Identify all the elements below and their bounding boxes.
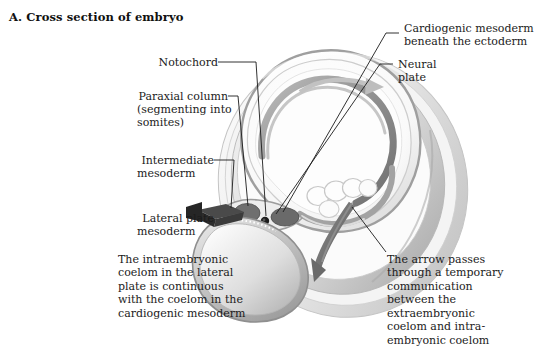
note-arrow-line3: communication: [387, 280, 473, 293]
label-notochord: Notochord: [68, 56, 218, 69]
right-mesoderm-mass: [271, 208, 299, 226]
coelom-communication-arrow: [311, 203, 352, 282]
label-lateral-plate-line2: mesoderm: [137, 225, 195, 238]
label-cardiogenic-line1: Cardiogenic mesoderm: [404, 22, 534, 35]
paraxial-column-mass: [234, 204, 260, 223]
label-intermediate-line1: Intermediate: [64, 154, 214, 167]
intermediate-mesoderm-mass: [222, 208, 238, 221]
page-title: A. Cross section of embryo: [9, 10, 183, 24]
label-paraxial-column-line1: Paraxial column: [78, 90, 228, 103]
leader-cardiogenic: [283, 33, 399, 212]
amnion: [241, 50, 420, 232]
cardiogenic-mesoderm: [300, 168, 392, 226]
note-arrow-line4: between the: [387, 293, 456, 306]
note-arrow-line7: embryonic coelom: [387, 334, 489, 347]
label-neural-plate-line2: plate: [398, 71, 426, 84]
somite-lobes: [307, 179, 377, 218]
amniotic-cavity: [256, 69, 402, 216]
note-arrow-line6: coelom and intra-: [387, 320, 485, 333]
note-arrow-line2: through a temporary: [387, 266, 503, 279]
note-coelom-line3: plate is continuous: [118, 280, 224, 293]
leader-neural-plate: [276, 64, 393, 214]
label-cardiogenic-line2: beneath the ectoderm: [404, 35, 527, 48]
figure-panel: A. Cross section of embryo: [0, 0, 541, 361]
leader-arrow-note: [352, 207, 386, 252]
note-arrow-line5: extraembryonic: [387, 307, 475, 320]
neural-plate-structure: [262, 79, 394, 203]
leader-notochord: [218, 62, 266, 216]
label-intermediate-line2: mesoderm: [137, 167, 195, 180]
note-coelom-line4: with the coelom in the: [118, 293, 243, 306]
notochord-dot: [261, 217, 269, 225]
note-arrow-line1: The arrow passes: [387, 253, 485, 266]
embryonic-disc: [218, 200, 302, 232]
amniotic-flow-arrow: [300, 78, 384, 95]
note-coelom-line2: coelom in the lateral: [118, 266, 233, 279]
label-paraxial-column-line3: somites): [137, 116, 184, 129]
label-lateral-plate-line1: Lateral plate: [64, 212, 214, 225]
note-coelom-line1: The intraembryonic: [118, 253, 228, 266]
label-paraxial-column-line2: (segmenting into: [137, 103, 232, 116]
leader-intermediate: [214, 160, 234, 208]
label-neural-plate-line1: Neural: [398, 58, 437, 71]
note-coelom-line5: cardiogenic mesoderm: [118, 307, 245, 320]
shell-shading: [262, 53, 432, 282]
